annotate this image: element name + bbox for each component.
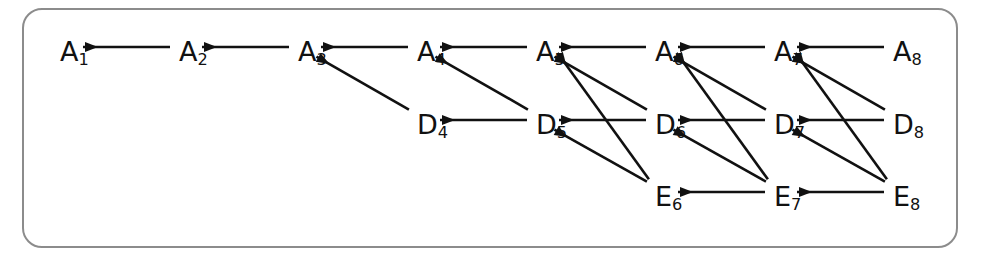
node-base-letter: A xyxy=(60,36,78,67)
node-a5: A5 xyxy=(536,38,565,65)
node-base-letter: E xyxy=(655,181,672,212)
edge-d4-to-a3 xyxy=(316,53,409,109)
node-a2: A2 xyxy=(179,38,208,65)
node-base-letter: A xyxy=(893,36,911,67)
node-base-letter: D xyxy=(536,109,557,140)
edge-d8-to-a7 xyxy=(792,53,885,109)
node-subscript: 8 xyxy=(910,195,920,214)
node-subscript: 4 xyxy=(438,123,448,142)
node-base-letter: D xyxy=(655,109,676,140)
node-subscript: 6 xyxy=(673,50,683,69)
edge-e8-to-e7 xyxy=(797,187,884,197)
node-base-letter: A xyxy=(298,36,316,67)
node-subscript: 3 xyxy=(316,50,326,69)
node-a8: A8 xyxy=(893,38,922,65)
node-d6: D6 xyxy=(655,111,686,138)
edge-a6-to-a5 xyxy=(559,42,646,52)
edge-e8-to-a7 xyxy=(793,52,887,180)
edge-a5-to-a4 xyxy=(440,42,527,52)
node-subscript: 4 xyxy=(435,50,445,69)
node-subscript: 6 xyxy=(676,123,686,142)
node-base-letter: A xyxy=(774,36,792,67)
node-base-letter: A xyxy=(417,36,435,67)
node-a7: A7 xyxy=(774,38,803,65)
edge-a8-to-a7 xyxy=(797,42,884,52)
edge-e8-to-d7 xyxy=(792,126,885,181)
node-subscript: 5 xyxy=(557,123,567,142)
node-subscript: 7 xyxy=(792,50,802,69)
edge-a7-to-a6 xyxy=(678,42,765,52)
edge-a4-to-a3 xyxy=(321,42,408,52)
node-d7: D7 xyxy=(774,111,805,138)
node-base-letter: D xyxy=(417,109,438,140)
edge-d7-to-a6 xyxy=(673,53,766,109)
node-a1: A1 xyxy=(60,38,89,65)
node-base-letter: A xyxy=(536,36,554,67)
diagram-canvas: A1A2A3A4A5A6A7A8D4D5D6D7D8E6E7E8 xyxy=(0,0,991,259)
edge-e6-to-d5 xyxy=(554,126,647,181)
node-a6: A6 xyxy=(655,38,684,65)
node-d4: D4 xyxy=(417,111,448,138)
edge-e7-to-e6 xyxy=(678,187,765,197)
node-subscript: 1 xyxy=(78,50,88,69)
node-subscript: 8 xyxy=(914,123,924,142)
node-d5: D5 xyxy=(536,111,567,138)
edge-e7-to-a6 xyxy=(674,52,768,180)
node-subscript: 8 xyxy=(911,50,921,69)
edge-d6-to-a5 xyxy=(554,53,647,109)
node-subscript: 6 xyxy=(672,195,682,214)
node-a4: A4 xyxy=(417,38,446,65)
node-base-letter: E xyxy=(774,181,791,212)
edge-e7-to-d6 xyxy=(673,126,766,181)
edge-layer xyxy=(0,0,991,259)
node-subscript: 2 xyxy=(197,50,207,69)
node-base-letter: E xyxy=(893,181,910,212)
node-a3: A3 xyxy=(298,38,327,65)
node-subscript: 5 xyxy=(554,50,564,69)
edge-d5-to-d4 xyxy=(440,115,527,125)
node-subscript: 7 xyxy=(795,123,805,142)
edge-a3-to-a2 xyxy=(202,42,289,52)
node-base-letter: D xyxy=(893,109,914,140)
node-d8: D8 xyxy=(893,111,924,138)
node-e7: E7 xyxy=(774,183,801,210)
node-e8: E8 xyxy=(893,183,920,210)
node-base-letter: A xyxy=(179,36,197,67)
edge-d5-to-a4 xyxy=(435,53,528,109)
node-base-letter: D xyxy=(774,109,795,140)
edge-a2-to-a1 xyxy=(83,42,170,52)
node-subscript: 7 xyxy=(791,195,801,214)
node-base-letter: A xyxy=(655,36,673,67)
edge-e6-to-a5 xyxy=(555,52,649,180)
node-e6: E6 xyxy=(655,183,682,210)
